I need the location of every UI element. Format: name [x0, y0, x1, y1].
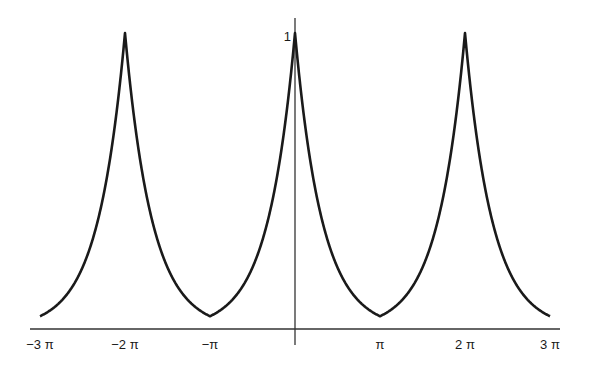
x-tick-label: −π [202, 337, 219, 352]
x-tick-label: 2 π [455, 337, 475, 352]
x-tick-label: π [376, 337, 385, 352]
y-tick-labels: 1 [284, 29, 291, 44]
x-tick-label: 3 π [540, 337, 560, 352]
x-tick-labels: −3 π−2 π−ππ2 π3 π [26, 337, 560, 352]
y-tick-label: 1 [284, 29, 291, 44]
x-tick-label: −2 π [111, 337, 138, 352]
chart: −3 π−2 π−ππ2 π3 π 1 [0, 0, 593, 377]
x-tick-label: −3 π [26, 337, 53, 352]
